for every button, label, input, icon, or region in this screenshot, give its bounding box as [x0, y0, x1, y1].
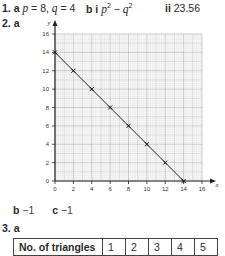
svg-text:10: 10	[42, 86, 49, 92]
svg-text:6: 6	[46, 123, 50, 129]
table-cell: 4	[172, 239, 195, 256]
table-row: No. of triangles 1 2 3 4 5	[14, 239, 218, 256]
q2-c-label: c	[52, 204, 58, 216]
svg-text:0: 0	[53, 186, 57, 192]
svg-text:0: 0	[46, 178, 50, 184]
triangles-table: No. of triangles 1 2 3 4 5	[13, 238, 218, 256]
svg-text:8: 8	[127, 186, 131, 192]
svg-text:2: 2	[72, 186, 76, 192]
svg-text:4: 4	[90, 186, 94, 192]
svg-text:8: 8	[46, 105, 50, 111]
svg-text:16: 16	[199, 186, 206, 192]
svg-text:10: 10	[144, 186, 151, 192]
table-cell: 5	[195, 239, 218, 256]
svg-text:14: 14	[180, 186, 187, 192]
svg-text:14: 14	[42, 49, 49, 55]
q2-c-value: −1	[61, 204, 73, 216]
svg-text:6: 6	[108, 186, 112, 192]
svg-text:y: y	[46, 19, 51, 27]
table-cell: 1	[103, 239, 126, 256]
q3-label: 3. a	[2, 222, 20, 234]
line-graph: 02468101214160246810121416xy	[0, 0, 225, 200]
q2-bc: b −1 c −1	[13, 204, 73, 216]
table-cell: 2	[126, 239, 149, 256]
svg-text:12: 12	[42, 68, 49, 74]
table-header: No. of triangles	[14, 239, 103, 256]
table-cell: 3	[149, 239, 172, 256]
q2-b-value: −1	[22, 204, 34, 216]
svg-text:x: x	[214, 181, 219, 189]
q2-b-label: b	[13, 204, 19, 216]
svg-text:16: 16	[42, 31, 49, 37]
svg-text:4: 4	[46, 141, 50, 147]
svg-text:12: 12	[162, 186, 169, 192]
svg-text:2: 2	[46, 160, 50, 166]
